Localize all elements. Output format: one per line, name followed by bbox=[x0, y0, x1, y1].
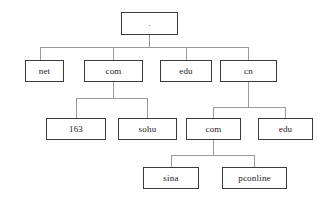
edge-com-to-163 bbox=[76, 98, 77, 118]
edge-com-bus bbox=[76, 98, 148, 99]
edge-cn-to-edu bbox=[285, 107, 286, 118]
edge-cncom-to-sina bbox=[171, 155, 172, 167]
edge-cn-stem bbox=[248, 82, 249, 107]
dns-tree-diagram: . net com edu cn 163 sohu com edu sina p… bbox=[0, 0, 325, 203]
edge-cn-to-com bbox=[213, 107, 214, 118]
node-sina-label: sina bbox=[163, 174, 178, 183]
edge-root-to-net bbox=[40, 47, 41, 60]
node-cn-com[interactable]: com bbox=[186, 118, 241, 140]
node-cn-com-label: com bbox=[205, 125, 221, 134]
node-net[interactable]: net bbox=[25, 60, 64, 82]
edge-com-to-sohu bbox=[147, 98, 148, 118]
node-pconline-label: pconline bbox=[238, 174, 271, 183]
node-cn[interactable]: cn bbox=[220, 60, 277, 82]
node-com[interactable]: com bbox=[84, 60, 143, 82]
edge-root-to-com bbox=[113, 47, 114, 60]
node-163-label: 163 bbox=[69, 125, 83, 134]
edge-root-to-cn bbox=[248, 47, 249, 60]
node-sohu[interactable]: sohu bbox=[118, 118, 177, 140]
node-root[interactable]: . bbox=[121, 12, 178, 35]
node-cn-edu[interactable]: edu bbox=[258, 118, 313, 140]
edge-cncom-stem bbox=[213, 140, 214, 156]
node-root-label: . bbox=[148, 19, 150, 28]
edge-com-stem bbox=[113, 82, 114, 99]
node-edu-label: edu bbox=[179, 67, 193, 76]
edge-cncom-to-pconline bbox=[254, 155, 255, 167]
node-pconline[interactable]: pconline bbox=[222, 167, 287, 189]
edge-cn-bus bbox=[213, 107, 286, 108]
edge-root-bus bbox=[40, 47, 249, 48]
node-edu[interactable]: edu bbox=[160, 60, 212, 82]
edge-root-to-edu bbox=[186, 47, 187, 60]
node-sohu-label: sohu bbox=[139, 125, 157, 134]
node-com-label: com bbox=[105, 67, 121, 76]
edge-cncom-bus bbox=[171, 155, 255, 156]
node-sina[interactable]: sina bbox=[143, 167, 199, 189]
node-cn-edu-label: edu bbox=[279, 125, 293, 134]
node-net-label: net bbox=[39, 67, 51, 76]
node-cn-label: cn bbox=[244, 67, 253, 76]
node-163[interactable]: 163 bbox=[46, 118, 106, 140]
